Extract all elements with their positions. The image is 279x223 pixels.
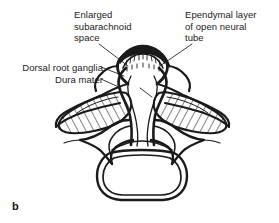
pedicle-right-inner [154, 126, 175, 153]
label-enlarged-subarachnoid-space: Enlarged subarachnoid space [74, 9, 132, 44]
pedicle-left-inner [109, 126, 130, 153]
dorsal-root-ganglion-left [59, 92, 132, 133]
label-dorsal-root-ganglia: Dorsal root ganglia [0, 62, 103, 74]
panel-letter: b [12, 200, 19, 212]
transverse-process-left-tip [64, 140, 82, 143]
neural-fold-right-outer [167, 66, 190, 91]
vertebral-canal-floor [112, 141, 172, 150]
figure-panel: Enlarged subarachnoid space Ependymal la… [0, 0, 279, 223]
transverse-process-right-tip [202, 140, 220, 143]
label-dura-mater: Dura mater [0, 74, 103, 86]
vertebral-body-inner [103, 155, 181, 195]
label-ependymal-layer: Ependymal layer of open neural tube [185, 9, 257, 44]
ependymal-lower-ticks [127, 63, 159, 71]
dorsal-root-ganglion-right [154, 92, 227, 133]
leader-ependymal [160, 44, 192, 66]
leader-inner-tube [140, 88, 152, 97]
